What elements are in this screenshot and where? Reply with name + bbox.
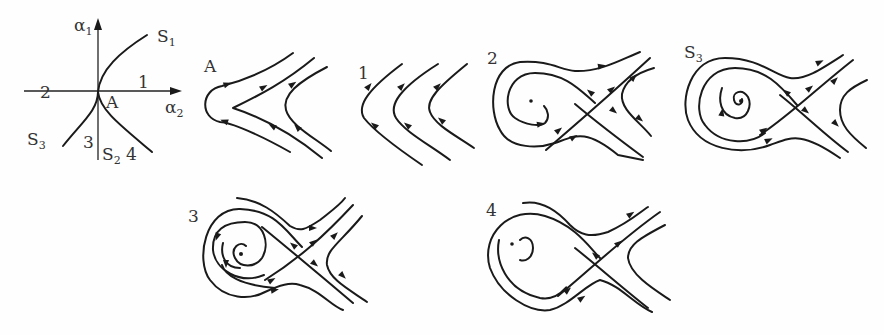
flow-arrow-icon — [330, 230, 340, 240]
separatrix — [233, 58, 322, 158]
region-3-label: 3 — [83, 132, 94, 152]
region-2-label: 2 — [40, 82, 51, 102]
separatrix — [262, 227, 353, 303]
trajectory — [394, 64, 450, 160]
separatrix — [575, 248, 648, 308]
portrait-1-label: 1 — [358, 63, 369, 83]
region-4-label: 4 — [126, 144, 137, 164]
trajectory — [429, 64, 474, 148]
s1-label: S1 — [157, 26, 176, 49]
homoclinic-loop — [699, 68, 797, 141]
trajectory — [628, 225, 670, 300]
phase-portrait-2: 2 — [487, 48, 654, 160]
phase-portrait-3: 3 — [188, 198, 367, 310]
s2-label: S2 — [102, 144, 121, 167]
phase-portrait-s3: S3 — [684, 42, 867, 158]
region-1-label: 1 — [138, 72, 149, 92]
trajectory — [205, 53, 293, 152]
equilibrium-point — [239, 252, 243, 256]
alpha2-label: α2 — [165, 97, 183, 120]
phase-portrait-4: 4 — [486, 200, 670, 312]
s3-label: S3 — [27, 129, 46, 152]
equilibrium-point — [510, 242, 514, 246]
trajectory — [523, 202, 648, 235]
flow-arrow-icon — [338, 271, 348, 281]
portrait-2-label: 2 — [487, 48, 498, 68]
phase-portrait-1: 1 — [358, 63, 474, 165]
flow-arrow-icon — [805, 83, 815, 93]
y-axis-arrow-icon — [94, 18, 102, 30]
point-a-label: A — [105, 92, 119, 112]
bifurcation-diagram: α1 α2 A S1 S2 S3 1 2 3 4 — [24, 15, 183, 167]
flow-arrow-icon — [831, 119, 841, 129]
flow-arrow-icon — [554, 125, 564, 135]
flow-arrow-icon — [635, 114, 645, 124]
separatrix-loop — [508, 73, 595, 125]
trajectory — [685, 55, 843, 158]
trajectory — [840, 80, 867, 148]
phase-portrait-a: A — [203, 53, 331, 158]
x-axis-arrow-icon — [170, 87, 182, 95]
trajectory — [222, 265, 275, 288]
flow-arrow-icon — [309, 225, 317, 231]
spiral — [520, 238, 533, 261]
portrait-4-label: 4 — [486, 200, 497, 220]
equilibrium-point — [739, 99, 743, 103]
trajectory — [488, 214, 652, 312]
flow-arrow-icon — [815, 58, 825, 67]
spiral — [720, 88, 749, 118]
portrait-a-label: A — [203, 56, 217, 76]
flow-arrow-icon — [292, 122, 302, 132]
portrait-3-label: 3 — [188, 206, 199, 226]
portrait-s3-label: S3 — [684, 42, 703, 65]
spiral — [213, 222, 266, 278]
separatrix — [546, 58, 650, 150]
trajectory — [327, 216, 367, 302]
alpha1-label: α1 — [74, 15, 92, 38]
equilibrium-point — [529, 99, 533, 103]
trajectory — [493, 52, 643, 160]
trajectory — [285, 67, 331, 151]
trajectory — [362, 64, 422, 165]
flow-arrow-icon — [609, 106, 619, 116]
trajectory — [237, 198, 345, 229]
figure: α1 α2 A S1 S2 S3 1 2 3 4 A 1 2 — [0, 0, 884, 335]
